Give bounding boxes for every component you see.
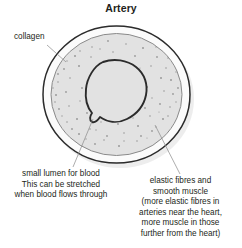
label-elastic-fibres-smooth-muscle: elastic fibres and smooth muscle (more e… xyxy=(119,176,242,240)
label-collagen: collagen xyxy=(14,32,78,43)
artery-diagram: Artery xyxy=(0,0,242,248)
lumen-shape xyxy=(86,60,147,122)
label-lumen: small lumen for blood This can be stretc… xyxy=(0,169,124,201)
